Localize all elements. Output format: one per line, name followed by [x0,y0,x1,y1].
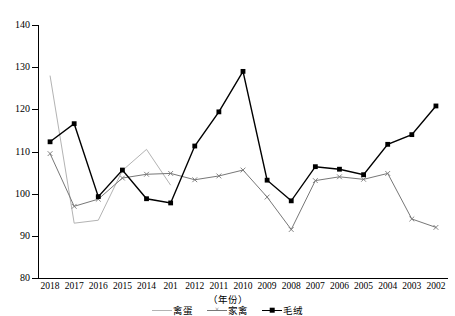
data-point-marker [409,132,414,137]
data-point-marker [192,144,197,149]
y-axis-tick-label: 130 [0,62,30,72]
x-axis-tick-label: 2004 [378,281,397,292]
y-axis-tick-label: 120 [0,104,30,114]
data-point-marker [168,201,173,206]
legend-label: 家禽 [228,306,248,316]
x-axis-tick-label: 2017 [65,281,84,292]
data-point-marker [241,69,246,74]
x-axis-tick-label: 2014 [137,281,156,292]
data-point-marker [216,109,221,114]
data-point-marker [72,121,77,126]
series-禽蛋 [50,76,171,224]
chart-container: 8090100110120130140 20182017201620152014… [0,0,455,316]
data-point-marker [265,195,270,200]
legend-swatch-icon [262,306,282,315]
legend-item-家禽[interactable]: ×家禽 [207,303,248,316]
data-point-marker [120,168,125,173]
x-axis-line [38,278,448,279]
data-point-marker [361,172,366,177]
x-axis-tick-label: 2006 [330,281,349,292]
legend-label: 毛绒 [283,306,303,316]
data-point-marker [434,104,439,109]
legend-item-毛绒[interactable]: 毛绒 [262,303,303,316]
data-point-marker [96,194,101,199]
data-point-marker [289,198,294,203]
x-axis-tick-label: 2008 [282,281,301,292]
plot-area [38,25,448,278]
data-point-marker [409,217,414,222]
x-axis-tick-label: 2005 [354,281,373,292]
data-point-marker [48,151,53,156]
x-axis-tick-label: 2010 [234,281,253,292]
x-axis-tick-label: 2007 [306,281,325,292]
chart-legend: 禽蛋×家禽毛绒 [0,303,455,316]
series-line [50,76,171,224]
series-line [50,71,436,203]
y-axis-tick-label: 110 [0,147,30,157]
data-point-marker [313,164,318,169]
y-axis-tick-label: 90 [0,231,30,241]
data-point-marker [144,196,149,201]
y-axis-tick-label: 100 [0,189,30,199]
legend-item-禽蛋[interactable]: 禽蛋 [152,303,193,316]
legend-label: 禽蛋 [173,306,193,316]
x-axis-tick-label: 2002 [426,281,445,292]
x-axis-tick-label: 2015 [113,281,132,292]
x-axis-tick-label: 2016 [89,281,108,292]
series-line [50,154,436,230]
x-axis-tick-label: 2012 [185,281,204,292]
y-axis-tick-label: 140 [0,20,30,30]
legend-swatch-icon: × [207,306,227,315]
y-axis-tick-label: 80 [0,273,30,283]
series-layer [38,25,448,278]
y-axis-tick [32,278,38,279]
x-axis-tick-label: 2003 [402,281,421,292]
x-axis-tick-label: 2011 [210,281,229,292]
legend-swatch-icon [152,306,172,315]
x-axis-tick-label: 2009 [258,281,277,292]
series-毛绒 [48,69,439,205]
data-point-marker [337,167,342,172]
x-axis-tick-label: 201 [164,281,178,292]
data-point-marker [385,142,390,147]
data-point-marker [289,227,294,232]
x-axis-tick-label: 2018 [41,281,60,292]
data-point-marker [265,178,270,183]
data-point-marker [48,139,53,144]
data-point-marker [434,225,439,230]
series-家禽 [48,151,439,232]
